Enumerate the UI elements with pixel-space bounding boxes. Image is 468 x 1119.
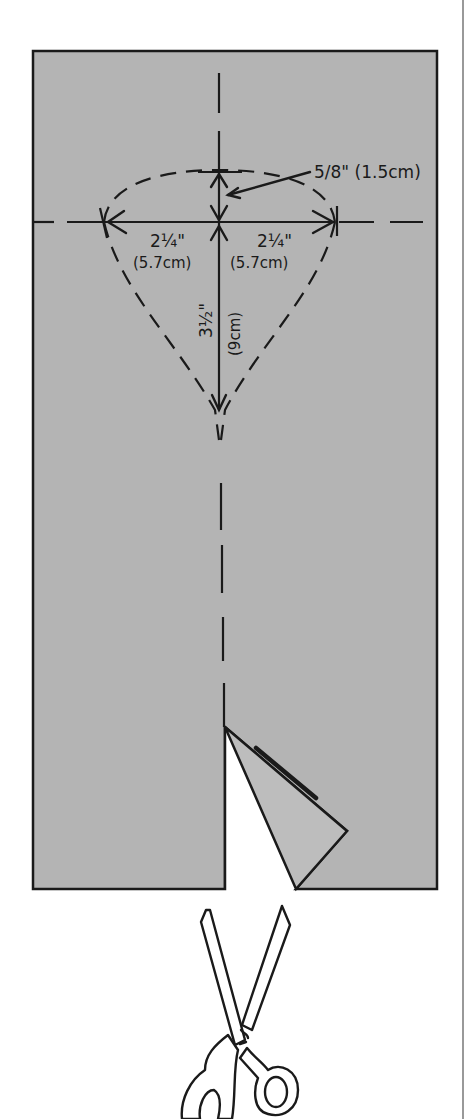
label-right-width-cm: (5.7cm) [230, 254, 288, 272]
label-left-width-cm: (5.7cm) [133, 254, 191, 272]
diagram-canvas: 5/8" (1.5cm) 2¼" (5.7cm) 2¼" (5.7cm) 3½"… [0, 0, 468, 1119]
scissors-icon [182, 906, 298, 1119]
label-right-width-in: 2¼" [257, 231, 292, 251]
label-depth-cm: (9cm) [226, 312, 244, 356]
label-left-width-in: 2¼" [150, 231, 185, 251]
label-depth-in: 3½" [196, 303, 216, 338]
label-top-offset: 5/8" (1.5cm) [314, 162, 421, 182]
